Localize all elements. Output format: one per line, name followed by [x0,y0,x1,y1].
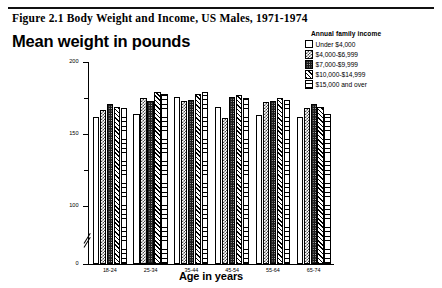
y-tick-label-0: 0 [75,261,78,267]
bar [243,98,249,264]
bar [121,108,127,263]
bar [188,100,194,264]
y-tick-minor-125 [84,170,89,171]
bar-group [130,62,171,264]
bar [270,101,276,264]
legend-title: Annual family income [311,30,437,37]
legend-label: $4,000-$6,999 [316,50,359,59]
figure-container: Figure 2.1 Body Weight and Income, US Ma… [0,0,442,288]
bar [297,117,303,264]
bar [284,100,290,264]
y-tick-100: 100 [83,206,89,207]
bar [317,107,323,264]
y-tick-label-200: 200 [69,59,78,65]
legend-swatch-empty [305,40,313,48]
y-tick-150: 150 [83,134,89,135]
bar [93,117,99,264]
bar-group [252,62,293,264]
y-tick-label-100: 100 [69,203,78,209]
bar-group [293,62,334,264]
bar [107,104,113,264]
chart-title: Mean weight in pounds [12,32,190,51]
bar [100,110,106,264]
plot-area: 2001501000 18-2425-3435-4445-5455-6465-7… [88,62,334,265]
y-tick-minor-175 [84,98,89,99]
bar [140,98,146,264]
x-axis [88,264,334,265]
bar [263,102,269,263]
bar [277,98,283,264]
top-rule [8,7,434,9]
bar-group-container [89,62,334,264]
legend-label: Under $4,000 [316,40,356,49]
bar [133,114,139,264]
y-tick-label-150: 150 [69,131,78,137]
bar [195,94,201,264]
bar [236,95,242,263]
y-tick-200: 200 [83,62,89,63]
bar-group [171,62,212,264]
bar [304,108,310,263]
bar [147,101,153,264]
legend-swatch-check [305,50,313,58]
y-tick-0: 0 [83,264,89,265]
bar [202,92,208,263]
x-axis-title: Age in years [88,270,334,282]
figure-caption: Figure 2.1 Body Weight and Income, US Ma… [12,12,308,24]
bar [174,97,180,264]
bar [324,114,330,264]
legend-item: Under $4,000 [305,40,437,50]
legend-item: $4,000-$6,999 [305,50,437,60]
bar [114,107,120,264]
bar [256,115,262,263]
bar [311,104,317,264]
bar-group [212,62,253,264]
bar-group [89,62,130,264]
bar [161,94,167,264]
bar [181,101,187,264]
bar [154,92,160,263]
bar [229,97,235,264]
bar [222,118,228,263]
bar [215,107,221,264]
